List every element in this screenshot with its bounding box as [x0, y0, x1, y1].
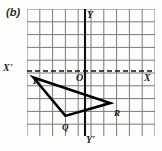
- triangle-outline: [33, 77, 110, 115]
- axis-label-y-negative: Y': [86, 134, 95, 145]
- triangle-pqr: [33, 77, 110, 115]
- coordinate-geometry-figure: (b) X' X Y Y' O P Q R: [0, 0, 162, 151]
- vertex-label-r: R: [114, 108, 120, 118]
- plot-area: [27, 9, 155, 136]
- gridlines: [27, 9, 155, 136]
- origin-label: O: [76, 72, 83, 83]
- vertex-label-q: Q: [62, 122, 69, 132]
- figure-caption: (b): [6, 6, 20, 18]
- vertex-label-p: P: [33, 76, 39, 86]
- axis-label-x-positive: X: [144, 72, 151, 83]
- plot-svg: [27, 9, 155, 136]
- axis-label-y-positive: Y: [87, 9, 93, 20]
- axis-label-x-negative: X': [3, 62, 12, 73]
